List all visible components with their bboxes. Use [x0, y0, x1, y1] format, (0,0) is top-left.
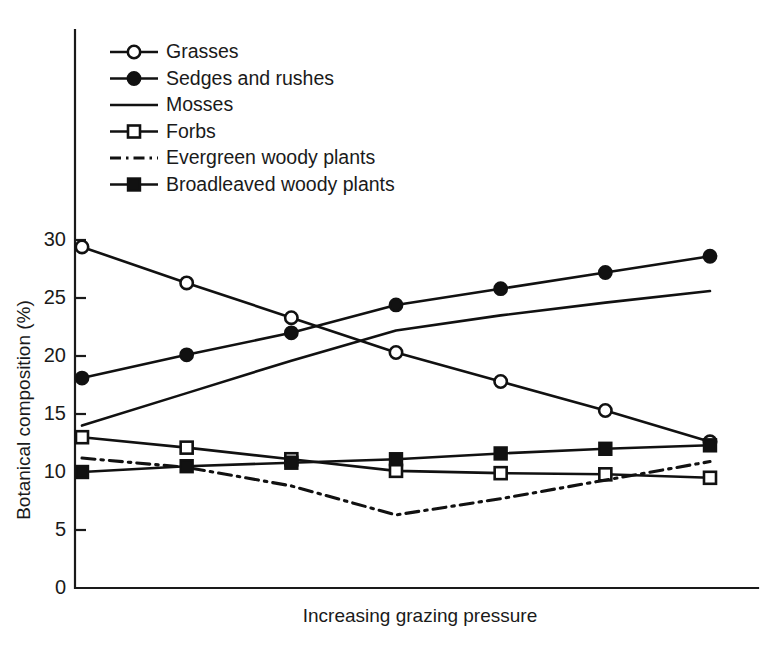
- y-tick-label: 0: [55, 576, 66, 598]
- data-point-filled-square: [76, 466, 88, 478]
- data-point-filled-circle: [494, 283, 506, 295]
- data-point-filled-circle: [390, 299, 402, 311]
- legend-item-grasses[interactable]: Grasses: [110, 40, 239, 62]
- y-tick-label: 20: [44, 344, 66, 366]
- legend-label: Grasses: [166, 40, 239, 62]
- data-point-filled-square: [704, 439, 716, 451]
- data-point-open-square: [76, 431, 88, 443]
- legend-item-forbs[interactable]: Forbs: [110, 120, 216, 142]
- series-grasses: [76, 241, 716, 448]
- data-point-filled-square: [181, 460, 193, 472]
- legend-label: Evergreen woody plants: [166, 146, 375, 168]
- legend-item-mosses[interactable]: Mosses: [110, 93, 233, 115]
- data-point-filled-circle: [76, 372, 88, 384]
- data-point-open-square: [181, 442, 193, 454]
- data-point-filled-square: [599, 443, 611, 455]
- legend-label: Mosses: [166, 93, 233, 115]
- data-point-open-square: [704, 472, 716, 484]
- data-point-open-circle: [76, 241, 88, 253]
- data-point-open-circle: [494, 375, 506, 387]
- legend-item-sedges-and-rushes[interactable]: Sedges and rushes: [110, 67, 334, 89]
- data-point-open-square: [390, 465, 402, 477]
- data-point-open-circle: [180, 277, 192, 289]
- y-tick-label: 25: [44, 286, 66, 308]
- data-point-filled-square: [128, 179, 140, 191]
- data-point-open-square: [495, 467, 507, 479]
- x-axis-title: Increasing grazing pressure: [303, 605, 537, 626]
- y-axis-title: Botanical composition (%): [13, 300, 34, 520]
- data-point-filled-square: [390, 453, 402, 465]
- legend-label: Forbs: [166, 120, 216, 142]
- series-group: [76, 241, 716, 515]
- data-point-filled-circle: [128, 72, 140, 84]
- data-point-open-circle: [128, 46, 140, 58]
- legend-label: Broadleaved woody plants: [166, 173, 395, 195]
- chart-legend: GrassesSedges and rushesMossesForbsEverg…: [110, 40, 395, 195]
- data-point-open-square: [128, 126, 140, 138]
- series-sedges-and-rushes: [76, 250, 716, 384]
- y-tick-label: 30: [44, 228, 66, 250]
- legend-item-evergreen-woody-plants[interactable]: Evergreen woody plants: [110, 146, 375, 168]
- chart-svg: 051015202530 Botanical composition (%) I…: [0, 0, 776, 655]
- data-point-open-circle: [599, 404, 611, 416]
- data-point-filled-circle: [285, 327, 297, 339]
- data-point-filled-circle: [704, 250, 716, 262]
- data-point-filled-circle: [180, 349, 192, 361]
- series-line: [82, 247, 710, 442]
- legend-item-broadleaved-woody-plants[interactable]: Broadleaved woody plants: [110, 173, 395, 195]
- data-point-open-circle: [390, 346, 402, 358]
- data-point-open-circle: [285, 312, 297, 324]
- legend-label: Sedges and rushes: [166, 67, 334, 89]
- y-axis-ticks: 051015202530: [44, 228, 86, 598]
- y-tick-label: 15: [44, 402, 66, 424]
- y-tick-label: 5: [55, 518, 66, 540]
- y-tick-label: 10: [44, 460, 66, 482]
- data-point-filled-circle: [599, 266, 611, 278]
- chart-figure: 051015202530 Botanical composition (%) I…: [0, 0, 776, 655]
- data-point-filled-square: [495, 447, 507, 459]
- data-point-filled-square: [285, 457, 297, 469]
